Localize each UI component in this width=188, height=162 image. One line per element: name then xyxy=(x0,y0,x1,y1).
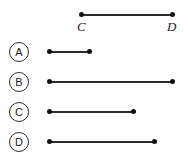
option-segment-line-d xyxy=(49,141,154,143)
option-segment-end-dot-d xyxy=(152,139,157,144)
option-marker-b[interactable]: B xyxy=(9,72,29,92)
reference-segment-line xyxy=(81,14,172,16)
option-segment-end-dot-a xyxy=(87,49,92,54)
option-marker-label-b: B xyxy=(15,77,22,88)
option-segment-line-c xyxy=(49,111,133,113)
reference-segment-start-dot xyxy=(79,12,84,17)
option-segment-line-a xyxy=(49,51,89,53)
option-segment-end-dot-b xyxy=(170,79,175,84)
option-marker-d[interactable]: D xyxy=(9,132,29,152)
option-segment-start-dot-c xyxy=(47,109,52,114)
option-marker-c[interactable]: C xyxy=(9,102,29,122)
option-segment-start-dot-d xyxy=(47,139,52,144)
point-label-c: C xyxy=(77,20,86,33)
option-marker-label-c: C xyxy=(15,107,23,118)
reference-segment-end-dot xyxy=(170,12,175,17)
point-label-d: D xyxy=(167,20,176,33)
line-segment-comparison-figure: C D A B C D xyxy=(0,0,188,162)
option-segment-line-b xyxy=(49,81,172,83)
option-marker-label-d: D xyxy=(15,137,23,148)
option-segment-start-dot-a xyxy=(47,49,52,54)
option-segment-end-dot-c xyxy=(131,109,136,114)
option-marker-a[interactable]: A xyxy=(9,42,29,62)
option-marker-label-a: A xyxy=(15,47,22,58)
option-segment-start-dot-b xyxy=(47,79,52,84)
